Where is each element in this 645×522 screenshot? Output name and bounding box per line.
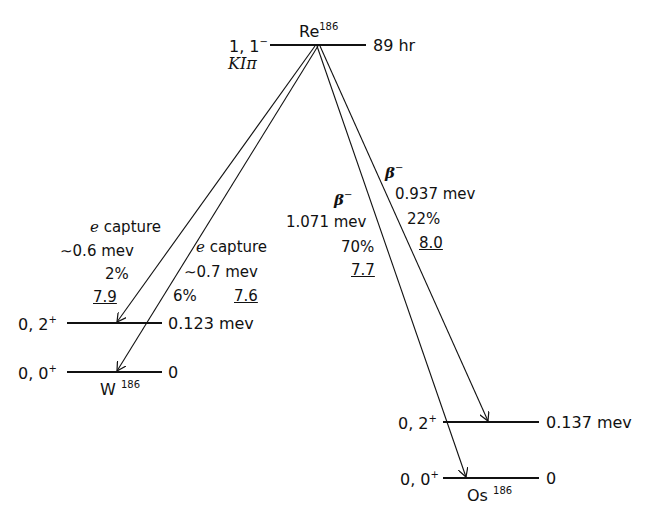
ec2-energy: ∼0.7 mev bbox=[184, 265, 258, 280]
beta2-mode: β− bbox=[385, 163, 403, 181]
re-class-label: KIπ bbox=[228, 56, 257, 72]
ec1-log-ft: 7.9 bbox=[93, 290, 117, 305]
ec2-mode: e capture bbox=[196, 240, 267, 255]
re-nucleus-label: Re186 bbox=[299, 22, 338, 40]
os-excited-spin: 0, 2+ bbox=[398, 414, 437, 432]
decay-scheme-lines bbox=[0, 0, 645, 522]
w-nucleus-label: W 186 bbox=[100, 380, 140, 398]
w-excited-energy: 0.123 mev bbox=[168, 316, 254, 332]
ec2-branch: 6% bbox=[173, 289, 197, 304]
w-excited-spin: 0, 2+ bbox=[18, 315, 57, 333]
w-ground-spin: 0, 0+ bbox=[18, 364, 57, 382]
ec1-mode: e capture bbox=[90, 220, 161, 235]
beta1-energy: 1.071 mev bbox=[286, 215, 366, 230]
beta2-energy: 0.937 mev bbox=[395, 187, 475, 202]
beta-arrow-to-os-excited bbox=[320, 46, 488, 421]
re-half-life: 89 hr bbox=[373, 38, 415, 54]
beta-arrow-to-os-ground bbox=[317, 46, 466, 477]
os-excited-energy: 0.137 mev bbox=[546, 415, 632, 431]
beta1-log-ft: 7.7 bbox=[351, 263, 375, 278]
beta2-branch: 22% bbox=[407, 212, 440, 227]
os-ground-energy: 0 bbox=[546, 471, 556, 487]
w-ground-energy: 0 bbox=[168, 365, 178, 381]
os-ground-spin: 0, 0+ bbox=[400, 470, 439, 488]
beta2-log-ft: 8.0 bbox=[419, 236, 443, 251]
ec2-log-ft: 7.6 bbox=[234, 289, 258, 304]
os-nucleus-label: Os 186 bbox=[467, 486, 512, 504]
re-spin-label: 1, 1− bbox=[229, 37, 268, 55]
ec1-energy: ∼0.6 mev bbox=[60, 244, 134, 259]
beta1-branch: 70% bbox=[341, 240, 374, 255]
beta1-mode: β− bbox=[334, 190, 352, 208]
ec1-branch: 2% bbox=[105, 267, 129, 282]
